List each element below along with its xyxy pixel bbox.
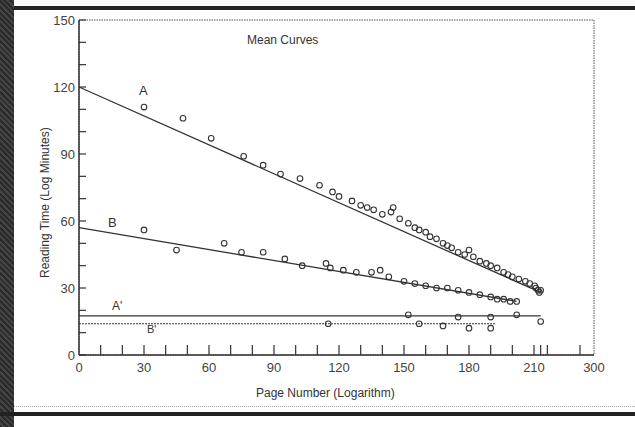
data-point	[336, 194, 342, 200]
data-point	[462, 252, 468, 258]
data-point	[358, 203, 364, 209]
data-point	[477, 258, 483, 264]
data-point	[401, 279, 407, 285]
data-point	[241, 153, 247, 159]
x-tick-label: 60	[202, 360, 216, 375]
chart-title: Mean Curves	[247, 33, 318, 47]
data-point	[180, 115, 186, 121]
data-point	[369, 270, 375, 276]
x-tick-label: 90	[267, 360, 281, 375]
data-point	[349, 198, 355, 204]
data-point	[466, 325, 472, 331]
data-point	[330, 189, 336, 195]
data-point	[282, 256, 288, 262]
data-point	[380, 212, 386, 218]
fit-line-b	[79, 228, 517, 302]
data-point	[494, 296, 500, 302]
y-tick-label: 90	[61, 147, 75, 162]
data-point	[538, 319, 544, 325]
data-point	[516, 276, 522, 282]
data-point	[386, 274, 392, 280]
data-point	[466, 247, 472, 253]
x-tick-label: 150	[393, 360, 415, 375]
x-tick-label: 300	[583, 360, 605, 375]
y-axis-title: Reading Time (Log Minutes)	[38, 127, 52, 278]
data-point	[174, 247, 180, 253]
plot-border	[79, 20, 594, 355]
y-tick-label: 120	[53, 80, 75, 95]
data-point	[406, 220, 412, 226]
fit-line-a	[79, 87, 541, 292]
data-point	[471, 254, 477, 260]
y-tick-label: 0	[68, 348, 75, 363]
data-point	[427, 234, 433, 240]
chart: 0306090120150 0306090120150180210300 Mea…	[0, 0, 635, 427]
data-point	[297, 176, 303, 182]
series-label-a: A	[139, 83, 148, 98]
data-points	[141, 104, 543, 331]
series-label-a-prime: A'	[112, 299, 122, 313]
data-point	[488, 325, 494, 331]
data-point	[141, 104, 147, 110]
y-tick-label: 60	[61, 214, 75, 229]
data-point	[455, 249, 461, 255]
x-tick-label: 180	[458, 360, 480, 375]
data-point	[455, 314, 461, 320]
data-point	[208, 136, 214, 142]
y-axis-ticks: 0306090120150	[53, 13, 86, 363]
data-point	[406, 312, 412, 318]
data-point	[239, 249, 245, 255]
x-tick-label: 210	[523, 360, 545, 375]
y-tick-label: 30	[61, 281, 75, 296]
data-point	[514, 312, 520, 318]
data-point	[434, 236, 440, 242]
data-point	[494, 265, 500, 271]
data-point	[507, 299, 513, 305]
data-point	[141, 227, 147, 233]
x-tick-label: 120	[328, 360, 350, 375]
series-label-b: B	[108, 215, 117, 230]
x-axis-title: Page Number (Logarithm)	[256, 386, 395, 400]
data-point	[221, 241, 227, 247]
series-label-b-prime: B'	[147, 323, 156, 335]
data-point	[323, 261, 329, 267]
data-point	[488, 314, 494, 320]
x-tick-label: 30	[137, 360, 151, 375]
data-point	[260, 162, 266, 168]
data-point	[377, 267, 383, 273]
fit-lines	[79, 87, 541, 324]
data-point	[364, 205, 370, 211]
data-point	[260, 249, 266, 255]
data-point	[397, 216, 403, 222]
plot-area	[79, 20, 594, 355]
y-tick-label: 150	[53, 13, 75, 28]
data-point	[371, 207, 377, 213]
data-point	[423, 229, 429, 235]
data-point	[317, 182, 323, 188]
x-tick-label: 0	[75, 360, 82, 375]
x-axis-ticks: 0306090120150180210300	[75, 345, 604, 375]
